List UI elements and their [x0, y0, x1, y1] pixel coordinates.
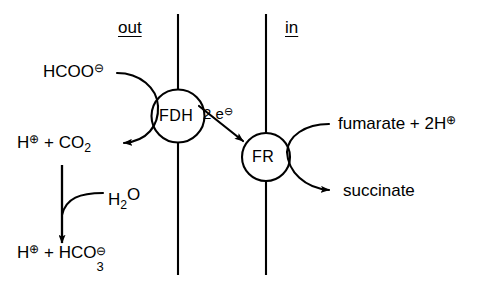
water-h: H: [108, 190, 120, 209]
plus-sign-3: +: [410, 114, 420, 133]
electron-charge: ⊖: [224, 105, 233, 117]
fr-to-succinate-arrow: [287, 152, 329, 190]
bicarbonate-text: HCO: [59, 243, 97, 262]
fumarate-proton-charge: ⊕: [446, 113, 456, 127]
label-proton-plus-bicarbonate: H⊕ + HCO⊖3: [17, 244, 96, 261]
proton-charge-2: ⊕: [29, 242, 39, 256]
label-fumarate: fumarate + 2H⊕: [338, 115, 456, 132]
label-fr: FR: [252, 149, 274, 165]
label-succinate: succinate: [343, 182, 415, 199]
co2-subscript: 2: [84, 141, 91, 155]
formate-charge: ⊖: [94, 61, 104, 75]
label-fdh: FDH: [159, 108, 193, 124]
fumarate-text: fumarate: [338, 114, 405, 133]
formate-to-fdh-curve: [117, 73, 158, 106]
proton-charge: ⊕: [29, 132, 39, 146]
label-out: out: [118, 19, 142, 36]
plus-sign-1: +: [44, 133, 54, 152]
proton-text-2: H: [17, 243, 29, 262]
fumarate-protons: 2H: [425, 114, 447, 133]
co2-text: CO: [59, 133, 85, 152]
water-addition-curve: [62, 193, 103, 215]
electron-count: 2: [203, 105, 211, 122]
plus-sign-2: +: [44, 243, 54, 262]
formate-text: HCOO: [43, 62, 94, 81]
membrane-transport-diagram: out in FDH FR HCOO⊖ 2 e⊖ H⊕ + CO2 H2O H⊕…: [0, 0, 482, 289]
label-formate: HCOO⊖: [43, 63, 104, 80]
bicarbonate-charge: ⊖: [96, 245, 106, 257]
label-in: in: [285, 19, 298, 36]
fumarate-to-fr-curve: [287, 124, 329, 152]
electron-symbol: e: [216, 105, 224, 122]
label-water: H2O: [108, 186, 140, 211]
water-o: O: [127, 185, 140, 204]
proton-text: H: [17, 133, 29, 152]
label-two-electrons: 2 e⊖: [203, 106, 233, 121]
bicarbonate-subscript: 3: [96, 260, 103, 273]
label-proton-plus-co2: H⊕ + CO2: [17, 134, 91, 154]
